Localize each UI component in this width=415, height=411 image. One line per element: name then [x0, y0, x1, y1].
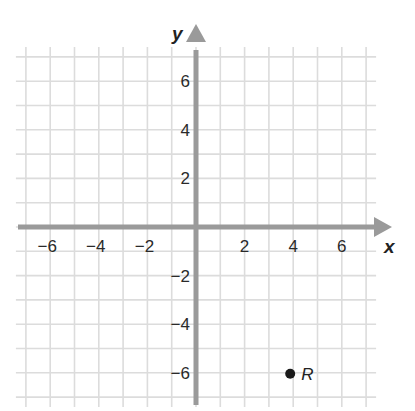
x-tick-label: 6	[337, 237, 346, 256]
x-axis-arrow-icon	[374, 217, 392, 237]
y-axis-arrow-icon	[186, 24, 206, 42]
y-tick-label: 6	[181, 72, 190, 91]
x-axis-label: x	[383, 236, 396, 257]
x-tick-label: −2	[135, 237, 154, 256]
y-tick-label: −2	[171, 267, 190, 286]
y-tick-label: −4	[171, 315, 190, 334]
x-tick-label: −6	[38, 237, 57, 256]
x-tick-label: 2	[240, 237, 249, 256]
y-axis-label: y	[171, 23, 184, 44]
y-tick-label: 4	[181, 121, 190, 140]
x-tick-label: −4	[86, 237, 105, 256]
y-tick-label: 2	[181, 169, 190, 188]
y-tick-label: −6	[171, 364, 190, 383]
x-tick-label: 4	[288, 237, 297, 256]
coordinate-plane: −6−4−2246642−2−4−6 R x y	[0, 0, 415, 411]
point-r	[285, 369, 295, 379]
data-points: R	[285, 365, 313, 384]
point-label: R	[301, 365, 313, 384]
